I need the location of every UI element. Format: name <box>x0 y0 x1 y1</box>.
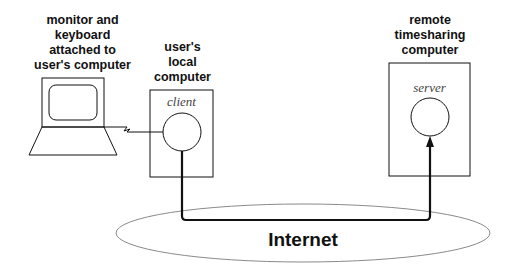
monitor-label: monitor and keyboard attached to user's … <box>20 13 145 73</box>
client-label: client <box>150 94 213 110</box>
terminal-cable <box>104 127 163 132</box>
client-circle <box>163 113 201 151</box>
local-computer-label: user's local computer <box>140 40 225 85</box>
terminal-icon <box>29 78 117 155</box>
server-circle <box>411 98 449 136</box>
connection-path <box>182 145 430 220</box>
server-label: server <box>389 80 470 96</box>
internet-label: Internet <box>233 229 373 251</box>
arrowhead-icon <box>426 136 434 147</box>
remote-computer-label: remote timesharing computer <box>380 13 480 58</box>
